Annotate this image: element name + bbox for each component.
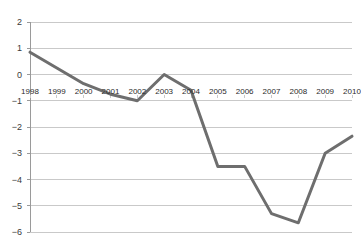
- y-gridlines: [30, 22, 352, 232]
- y-axis-tick-label: −2: [0, 122, 22, 132]
- y-axis-tick-label: −5: [0, 201, 22, 211]
- y-axis-tick-label: 0: [0, 70, 22, 80]
- x-axis-tick-label: 2003: [155, 87, 173, 96]
- y-axis-tick-label: −3: [0, 148, 22, 158]
- data-series-line: [30, 52, 352, 223]
- y-axis-tick-label: −6: [0, 227, 22, 237]
- x-axis-tick-label: 2010: [343, 87, 361, 96]
- x-axis-tick-label: 2004: [182, 87, 200, 96]
- x-axis-tick-label: 1998: [21, 87, 39, 96]
- x-axis-tick-label: 2009: [316, 87, 334, 96]
- x-axis-tick-label: 2007: [263, 87, 281, 96]
- x-axis-tick-label: 2000: [75, 87, 93, 96]
- y-axis-tick-label: −4: [0, 175, 22, 185]
- x-axis-tick-label: 1999: [48, 87, 66, 96]
- x-axis-tick-label: 2001: [102, 87, 120, 96]
- y-axis-tick-label: 2: [0, 17, 22, 27]
- x-axis-tick-label: 2006: [236, 87, 254, 96]
- x-axis-tick-label: 2005: [209, 87, 227, 96]
- x-axis-tick-label: 2008: [289, 87, 307, 96]
- y-axis-tick-label: 1: [0, 43, 22, 53]
- y-axis-tick-label: −1: [0, 96, 22, 106]
- x-axis-tick-label: 2002: [128, 87, 146, 96]
